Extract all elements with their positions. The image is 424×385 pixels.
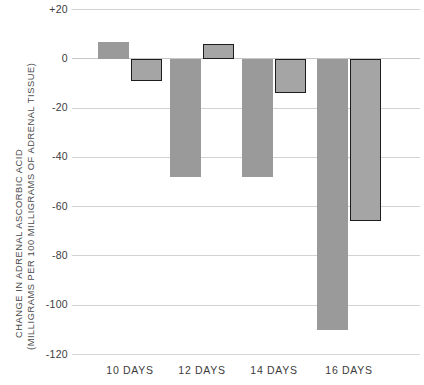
bar: [242, 59, 273, 177]
x-axis-category-label: 10 DAYS: [90, 364, 170, 376]
y-axis-tick-label: -100: [6, 298, 68, 310]
gridline: [72, 354, 420, 355]
plot-area: [72, 0, 420, 385]
y-axis-tick-label: -40: [6, 150, 68, 162]
x-axis-category-label: 14 DAYS: [234, 364, 314, 376]
y-axis-tick-label: -120: [6, 348, 68, 360]
y-axis-tick-label: -20: [6, 101, 68, 113]
bar: [350, 59, 381, 222]
bar: [275, 59, 306, 94]
x-axis-category-label: 12 DAYS: [162, 364, 242, 376]
y-axis-tick-label: +20: [6, 3, 68, 15]
gridline: [72, 9, 420, 10]
gridline: [72, 255, 420, 256]
y-axis-tick-labels: +200-20-40-60-80-100-120: [0, 0, 68, 385]
bar: [317, 59, 348, 330]
bar: [98, 42, 129, 59]
bar: [170, 59, 201, 177]
y-axis-tick-label: -60: [6, 200, 68, 212]
bar: [203, 44, 234, 59]
bar-chart: CHANGE IN ADRENAL ASCORBIC ACID (MILLIGR…: [0, 0, 424, 385]
y-axis-tick-label: -80: [6, 249, 68, 261]
x-axis-category-labels: 10 DAYS12 DAYS14 DAYS16 DAYS: [72, 364, 420, 384]
y-axis-tick-label: 0: [6, 52, 68, 64]
gridline: [72, 305, 420, 306]
x-axis-category-label: 16 DAYS: [309, 364, 389, 376]
bar: [131, 59, 162, 81]
